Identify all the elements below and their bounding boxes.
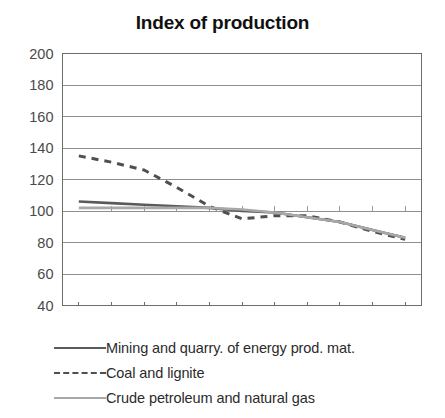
y-tick-label: 80: [37, 235, 53, 251]
x-axis-labels: 199619982000200220042006: [63, 315, 422, 316]
legend-item-mining: Mining and quarry. of energy prod. mat.: [54, 336, 355, 360]
x-tick-label: 1996: [63, 315, 95, 316]
legend-item-coal: Coal and lignite: [54, 361, 204, 385]
x-tick-label: 2004: [324, 315, 356, 316]
series-layer: [79, 156, 405, 239]
chart-title: Index of production: [0, 12, 445, 34]
legend-item-crude: Crude petroleum and natural gas: [54, 386, 315, 410]
legend-line-solid-light-icon: [54, 391, 106, 405]
chart-figure: Index of production 40608010012014016018…: [0, 0, 445, 418]
line-chart-svg: 406080100120140160180200 199619982000200…: [0, 40, 445, 315]
x-tick-label: 2002: [259, 315, 291, 316]
y-tick-label: 60: [37, 266, 53, 282]
x-tick-label: 1998: [128, 315, 160, 316]
y-tick-label: 40: [37, 298, 53, 314]
y-tick-label: 120: [29, 172, 53, 188]
plot-area: 406080100120140160180200 199619982000200…: [0, 40, 445, 315]
legend-label-mining: Mining and quarry. of energy prod. mat.: [106, 340, 355, 356]
y-tick-label: 180: [29, 77, 53, 93]
legend-label-crude: Crude petroleum and natural gas: [106, 390, 315, 406]
legend-line-solid-dark-icon: [54, 341, 106, 355]
legend-line-dashed-icon: [54, 366, 106, 380]
y-tick-label: 140: [29, 140, 53, 156]
x-tick-label: 2000: [193, 315, 225, 316]
x-tick-label: 2006: [389, 315, 421, 316]
y-axis-labels: 406080100120140160180200: [29, 46, 53, 314]
y-tick-label: 100: [29, 203, 53, 219]
x-axis-ticks: [79, 206, 405, 306]
y-tick-label: 160: [29, 109, 53, 125]
legend-label-coal: Coal and lignite: [106, 365, 204, 381]
y-tick-label: 200: [29, 46, 53, 62]
gridlines: [63, 85, 422, 274]
chart-legend: Mining and quarry. of energy prod. mat. …: [0, 336, 445, 418]
